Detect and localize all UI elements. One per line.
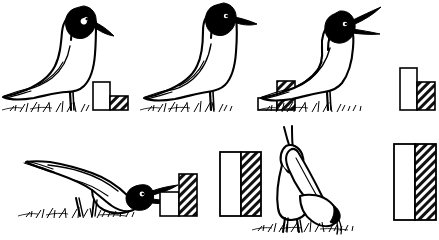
figure-canvas <box>0 0 439 240</box>
bar-group-4-2 <box>220 152 261 216</box>
bar-open-3-1 <box>400 68 417 110</box>
bar-hatched-5-1 <box>415 144 436 220</box>
gull-display-figure <box>0 0 439 240</box>
bar-group-5-1 <box>394 144 436 220</box>
bar-hatched-4-2 <box>241 152 261 216</box>
bar-hatched-4-1 <box>179 174 197 216</box>
bar-open-4-1 <box>160 192 179 216</box>
bar-open-4-2 <box>220 152 241 216</box>
bar-hatched-3-1 <box>417 82 435 110</box>
bar-open-1-1 <box>93 82 110 110</box>
bar-hatched-1-1 <box>110 96 128 110</box>
bar-open-5-1 <box>394 144 415 220</box>
